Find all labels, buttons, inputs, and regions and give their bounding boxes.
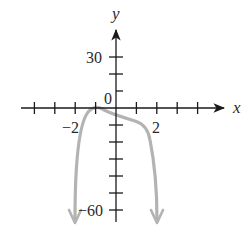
x-axis-label: x bbox=[232, 98, 241, 117]
y-tick-label-0: 0 bbox=[104, 90, 112, 107]
y-axis-label: y bbox=[110, 4, 120, 23]
x-tick-label-2: 2 bbox=[152, 119, 160, 136]
y-tick-label-30: 30 bbox=[86, 49, 102, 66]
function-graph: x −2 2 y 30 0 −60 bbox=[0, 0, 247, 233]
x-tick-label-neg2: −2 bbox=[62, 119, 79, 136]
y-axis: y 30 0 −60 bbox=[78, 4, 123, 222]
x-axis: x −2 2 bbox=[21, 98, 241, 136]
y-tick-label-neg60: −60 bbox=[78, 202, 103, 219]
